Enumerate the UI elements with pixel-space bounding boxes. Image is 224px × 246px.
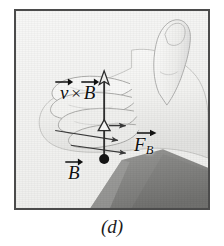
- B-vector-symbol: B: [84, 83, 96, 102]
- F-subscript-B: B: [146, 143, 154, 157]
- photo-frame: v × B F B: [14, 9, 210, 210]
- F-sub-B-label: F B: [134, 135, 154, 156]
- B-symbol-text: B: [84, 82, 96, 103]
- figure-root: v × B F B: [0, 0, 224, 246]
- F-vector-symbol: F: [134, 135, 146, 154]
- F-symbol-text: F: [134, 134, 146, 155]
- cross-operator: ×: [68, 83, 83, 103]
- v-cross-B-label: v × B: [60, 83, 95, 102]
- B-field-vector-symbol: B: [68, 163, 80, 182]
- right-hand-rule-photograph: [16, 11, 208, 208]
- B-field-label: B: [68, 163, 80, 182]
- v-vector-symbol: v: [60, 83, 68, 102]
- v-symbol-text: v: [60, 82, 68, 103]
- vector-arrow-over-F: [136, 128, 158, 136]
- vector-tail-dot: [99, 154, 109, 164]
- figure-caption: (d): [0, 216, 224, 238]
- B-field-symbol-text: B: [68, 162, 80, 183]
